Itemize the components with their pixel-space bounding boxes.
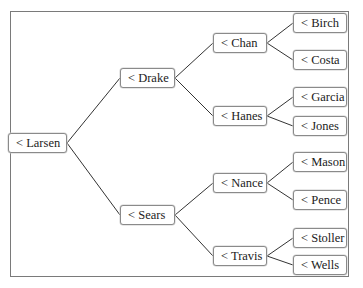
node-wells[interactable]: < Wells xyxy=(293,255,347,275)
node-hanes[interactable]: < Hanes xyxy=(213,106,267,126)
node-mason[interactable]: < Mason xyxy=(293,152,347,172)
edge-drake-chan xyxy=(175,43,213,78)
node-nance[interactable]: < Nance xyxy=(213,173,267,193)
edge-chan-birch xyxy=(267,23,293,43)
edge-sears-travis xyxy=(175,215,213,256)
edge-travis-stoller xyxy=(267,238,293,256)
node-drake[interactable]: < Drake xyxy=(120,68,175,88)
node-birch[interactable]: < Birch xyxy=(293,13,347,33)
node-garcia[interactable]: < Garcia xyxy=(293,87,347,107)
edge-larsen-sears xyxy=(67,143,120,215)
edge-travis-wells xyxy=(267,256,293,265)
edge-hanes-jones xyxy=(267,116,293,126)
node-pence[interactable]: < Pence xyxy=(293,190,347,210)
edge-drake-hanes xyxy=(175,78,213,116)
edge-sears-nance xyxy=(175,183,213,215)
node-larsen[interactable]: < Larsen xyxy=(8,133,67,153)
node-travis[interactable]: < Travis xyxy=(213,246,267,266)
edge-chan-costa xyxy=(267,43,293,60)
node-jones[interactable]: < Jones xyxy=(293,116,347,136)
edge-nance-mason xyxy=(267,162,293,183)
edge-nance-pence xyxy=(267,183,293,200)
node-costa[interactable]: < Costa xyxy=(293,50,347,70)
edge-larsen-drake xyxy=(67,78,120,143)
node-chan[interactable]: < Chan xyxy=(213,33,267,53)
node-sears[interactable]: < Sears xyxy=(120,205,175,225)
edge-hanes-garcia xyxy=(267,97,293,116)
node-stoller[interactable]: < Stoller xyxy=(293,228,347,248)
